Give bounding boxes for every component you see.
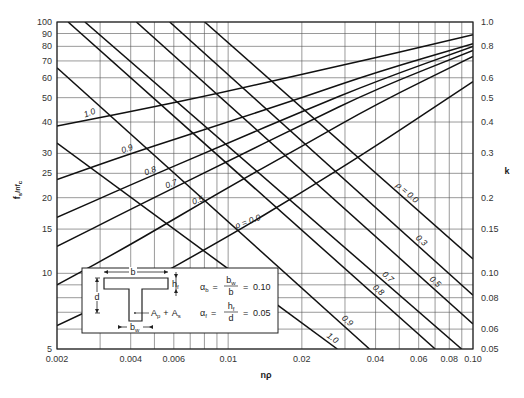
x-axis-label: nρ xyxy=(260,370,271,380)
y-left-tick-label: 20 xyxy=(42,193,52,203)
fs-curve-label: 0.9 xyxy=(340,313,356,329)
k-curve-label: ρ = 0.0 xyxy=(233,212,262,231)
x-tick-label: 0.006 xyxy=(163,354,186,364)
fs-curve-label: 0.5 xyxy=(428,274,444,290)
x-tick-label: 0.01 xyxy=(219,354,237,364)
y-right-tick-label: 0.6 xyxy=(481,73,494,83)
k-curve-label: 0.7 xyxy=(164,177,179,191)
y-left-tick-label: 40 xyxy=(42,117,52,127)
tbeam-inset: b hf d bw Ap+As αb= bw b = 0.10 αf= hf d… xyxy=(82,267,278,333)
svg-text:0.05: 0.05 xyxy=(253,308,271,318)
y-right-tick-label: 0.15 xyxy=(481,224,499,234)
k-curve-label: 1.0 xyxy=(82,106,97,120)
fs-curve-label: 0.3 xyxy=(414,233,430,249)
svg-text:d: d xyxy=(228,313,233,323)
k-curve-label: 0.8 xyxy=(143,164,158,178)
y-left-tick-label: 50 xyxy=(42,93,52,103)
y-right-tick-label: 0.08 xyxy=(481,293,499,303)
chart: 0.0020.0040.0060.010.020.040.060.080.10 … xyxy=(0,0,524,398)
y-left-tick-label: 80 xyxy=(42,41,52,51)
x-tick-label: 0.004 xyxy=(119,354,142,364)
y-right-tick-label: 1.0 xyxy=(481,17,494,27)
fs-curve-label: 0.8 xyxy=(371,282,387,298)
x-tick-label: 0.02 xyxy=(293,354,311,364)
y-left-tick-label: 10 xyxy=(42,268,52,278)
y-right-tick-label: 0.8 xyxy=(481,41,494,51)
x-tick-label: 0.10 xyxy=(464,354,482,364)
y-right-axis-ticks: 1.00.80.60.50.40.30.20.150.100.080.060.0… xyxy=(481,17,499,354)
svg-text:b: b xyxy=(130,267,135,277)
x-tick-label: 0.04 xyxy=(367,354,385,364)
y-right-axis-label: k xyxy=(504,166,510,176)
k-curve xyxy=(57,56,473,284)
fs-curve-label: 0.7 xyxy=(380,269,396,284)
y-left-tick-label: 70 xyxy=(42,56,52,66)
y-left-tick-label: 100 xyxy=(37,17,52,27)
k-curve xyxy=(57,51,473,247)
y-left-tick-label: 5 xyxy=(47,344,52,354)
y-left-tick-label: 90 xyxy=(42,29,52,39)
k-curve xyxy=(57,44,473,180)
y-right-tick-label: 0.4 xyxy=(481,117,494,127)
y-left-axis-label: fs/nfc xyxy=(12,180,23,199)
y-right-tick-label: 0.06 xyxy=(481,324,499,334)
y-left-tick-label: 15 xyxy=(42,224,52,234)
svg-text:d: d xyxy=(94,292,99,302)
svg-text:fs/nfc: fs/nfc xyxy=(12,180,23,199)
k-curve-label: 0.5 xyxy=(190,193,205,207)
y-right-tick-label: 0.10 xyxy=(481,268,499,278)
y-right-tick-label: 0.05 xyxy=(481,344,499,354)
svg-text:=: = xyxy=(243,308,248,318)
svg-text:b: b xyxy=(228,287,233,297)
y-left-tick-label: 60 xyxy=(42,73,52,83)
x-axis-ticks: 0.0020.0040.0060.010.020.040.060.080.10 xyxy=(46,354,482,364)
y-left-tick-label: 30 xyxy=(42,148,52,158)
y-right-tick-label: 0.2 xyxy=(481,193,494,203)
x-tick-label: 0.08 xyxy=(441,354,459,364)
y-left-axis-ticks: 10090807060504030252015105 xyxy=(37,17,52,354)
y-right-tick-label: 0.5 xyxy=(481,93,494,103)
fs-curve-label: 1.0 xyxy=(325,330,341,345)
svg-text:0.10: 0.10 xyxy=(253,282,271,292)
k-curve xyxy=(57,35,473,126)
svg-text:Ap+As: Ap+As xyxy=(151,308,181,319)
x-tick-label: 0.002 xyxy=(46,354,69,364)
svg-text:=: = xyxy=(243,282,248,292)
y-right-tick-label: 0.3 xyxy=(481,148,494,158)
y-left-tick-label: 25 xyxy=(42,168,52,178)
x-tick-label: 0.06 xyxy=(410,354,428,364)
